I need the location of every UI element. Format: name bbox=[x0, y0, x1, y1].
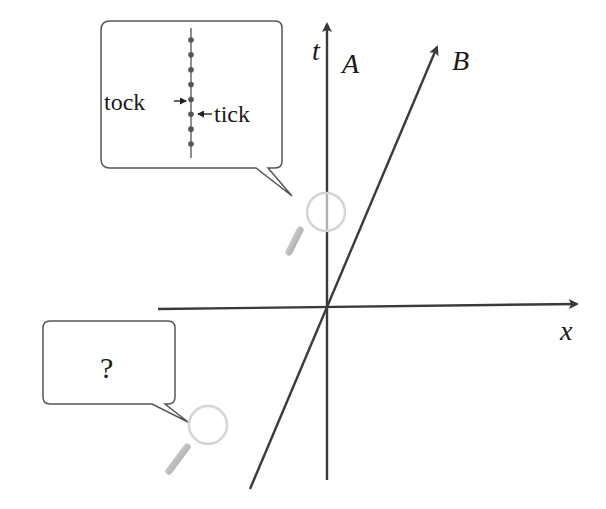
worldline-b-label: B bbox=[452, 45, 469, 76]
tick-dot bbox=[188, 67, 194, 73]
question-mark: ? bbox=[100, 351, 113, 384]
tick-dot bbox=[188, 126, 194, 132]
x-axis bbox=[158, 304, 577, 309]
x-axis-label: x bbox=[559, 315, 573, 346]
t-axis-label: t bbox=[312, 35, 321, 66]
tick-dot bbox=[188, 82, 194, 88]
magnifier-icon-top bbox=[289, 193, 345, 252]
tick-dot bbox=[188, 141, 194, 147]
worldline-a-label: A bbox=[340, 48, 360, 79]
tock-label: tock bbox=[104, 89, 145, 115]
tick-dot bbox=[188, 52, 194, 58]
tick-dot bbox=[188, 37, 194, 43]
spacetime-diagram: t A B x tock tick ? bbox=[0, 0, 606, 509]
tick-dot bbox=[188, 97, 194, 103]
tick-dot bbox=[188, 111, 194, 117]
callout-top: tock tick bbox=[101, 21, 292, 196]
speech-bubble-bottom bbox=[43, 321, 188, 422]
tick-label: tick bbox=[214, 101, 250, 127]
callout-bottom: ? bbox=[43, 321, 188, 422]
